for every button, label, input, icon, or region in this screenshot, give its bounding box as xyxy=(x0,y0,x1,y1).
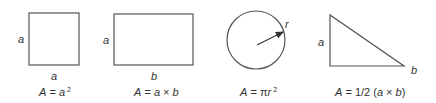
triangle-figure: a b A = 1/2 (a × b) xyxy=(318,15,417,98)
rectangle-figure: a b A = a × b xyxy=(103,14,193,98)
rectangle-shape xyxy=(114,14,193,65)
square-formula: A = a2 xyxy=(38,86,71,98)
circle-figure: r A = πr2 xyxy=(227,11,290,98)
square-bottom-label: a xyxy=(51,70,57,82)
circle-radius-label: r xyxy=(285,18,290,30)
radius-arrow-icon xyxy=(257,32,283,45)
area-formulas-diagram: a a A = a2 a b A = a × b r A = πr2 a b A… xyxy=(0,0,436,103)
circle-formula: A = πr2 xyxy=(239,86,277,98)
square-figure: a a A = a2 xyxy=(18,13,79,98)
triangle-bottom-label: b xyxy=(411,64,417,76)
triangle-left-label: a xyxy=(318,36,324,48)
rectangle-bottom-label: b xyxy=(151,70,157,82)
square-left-label: a xyxy=(18,33,24,45)
triangle-shape xyxy=(330,15,404,66)
rectangle-left-label: a xyxy=(103,34,109,46)
circle-shape xyxy=(227,11,285,69)
square-shape xyxy=(29,13,79,65)
triangle-formula: A = 1/2 (a × b) xyxy=(334,86,405,98)
rectangle-formula: A = a × b xyxy=(133,86,179,98)
